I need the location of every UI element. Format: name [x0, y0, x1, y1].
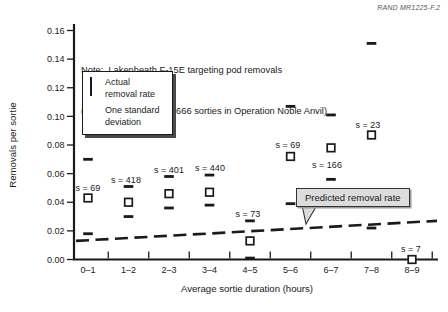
- y-tick-label: 0.14: [47, 54, 65, 64]
- std-dash-lower: [205, 204, 215, 207]
- legend-actual-line1: Actual: [105, 77, 155, 89]
- sortie-count-label: s = 7: [401, 244, 421, 254]
- sortie-count-label: s = 440: [195, 163, 225, 173]
- y-tick-label: 0.10: [47, 112, 65, 122]
- x-tick-label: 2–3: [161, 265, 176, 275]
- y-tick-label: 0.16: [47, 26, 65, 36]
- actual-point-square: [125, 198, 133, 206]
- legend-std-line1: One standard: [105, 105, 160, 117]
- std-dash-upper: [326, 114, 336, 117]
- std-dash-lower: [83, 232, 93, 235]
- callout-tail-pointer: [302, 205, 317, 224]
- x-tick-label: 3–4: [202, 265, 217, 275]
- std-dash-lower: [326, 178, 336, 181]
- x-tick-label: 5–6: [283, 265, 298, 275]
- x-tick-label: 1–2: [121, 265, 136, 275]
- actual-point-square: [246, 237, 254, 245]
- sortie-count-label: s = 73: [236, 209, 261, 219]
- actual-point-square: [327, 144, 335, 152]
- std-dash-lower: [164, 207, 174, 210]
- legend-square-marker: [90, 77, 100, 100]
- legend-dash-marker: [90, 105, 100, 128]
- std-dash-upper: [164, 175, 174, 178]
- std-dash-upper: [124, 185, 134, 188]
- sortie-count-label: s = 69: [76, 183, 101, 193]
- actual-point-square: [287, 153, 295, 161]
- y-tick-label: 0.02: [47, 226, 65, 236]
- actual-point-square: [368, 131, 376, 139]
- x-tick-label: 8–9: [404, 265, 419, 275]
- y-tick-label: 0.00: [47, 255, 65, 265]
- actual-point-square: [206, 188, 214, 196]
- x-tick-label: 6–7: [323, 265, 338, 275]
- std-dash-upper: [205, 174, 215, 177]
- x-tick-label: 4–5: [242, 265, 257, 275]
- predicted-line: [76, 221, 437, 241]
- std-dash-lower: [124, 215, 134, 218]
- chart-legend: Actual removal rate One standard deviati…: [82, 71, 173, 135]
- legend-actual-label: Actual removal rate: [105, 77, 155, 100]
- actual-point-square: [165, 190, 173, 198]
- std-dash-upper: [245, 219, 255, 222]
- legend-item-actual: Actual removal rate: [90, 77, 168, 100]
- sortie-count-label: s = 418: [111, 175, 141, 185]
- actual-point-square: [408, 256, 416, 264]
- sortie-count-label: s = 401: [154, 165, 184, 175]
- x-tick-label: 0–1: [80, 265, 95, 275]
- sortie-count-label: s = 23: [356, 120, 381, 130]
- y-tick-label: 0.12: [47, 83, 65, 93]
- legend-actual-line2: removal rate: [105, 89, 155, 101]
- x-tick-label: 7–8: [364, 265, 379, 275]
- y-tick-label: 0.06: [47, 169, 65, 179]
- y-tick-label: 0.08: [47, 140, 65, 150]
- y-axis-title: Removals per sortie: [7, 102, 18, 187]
- rand-figure: RAND MR1225-F.2 0.160.140.120.100.080.06…: [0, 0, 448, 312]
- x-axis-title: Average sortie duration (hours): [181, 283, 313, 294]
- sortie-count-label: s = 166: [312, 160, 342, 170]
- actual-point-square: [84, 194, 92, 202]
- std-dash-lower: [245, 257, 255, 260]
- predicted-rate-callout: Predicted removal rate: [296, 188, 410, 207]
- std-dash-lower: [367, 227, 377, 230]
- legend-std-label: One standard deviation: [105, 105, 160, 128]
- std-dash-upper: [83, 158, 93, 161]
- legend-item-std: One standard deviation: [90, 105, 168, 128]
- legend-std-line2: deviation: [105, 117, 160, 129]
- std-dash-lower: [286, 202, 296, 205]
- std-dash-upper: [367, 42, 377, 45]
- y-tick-label: 0.04: [47, 197, 65, 207]
